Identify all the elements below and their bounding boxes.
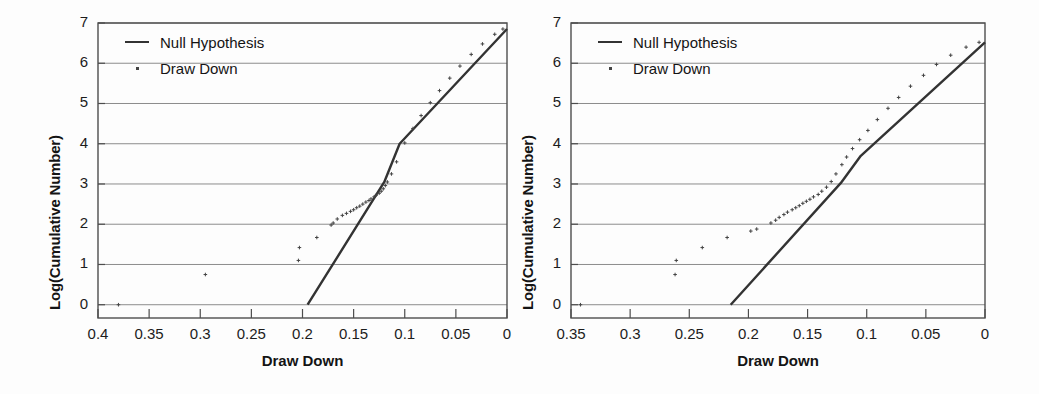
draw-down-point [808, 197, 812, 201]
legend-item-draw-down-right: Draw Down [593, 55, 737, 81]
draw-down-point [797, 204, 801, 208]
draw-down-point [909, 84, 913, 88]
draw-down-point [298, 246, 302, 250]
y-tick-label: 3 [533, 174, 561, 191]
y-tick-label: 7 [533, 13, 561, 30]
draw-down-point [725, 236, 729, 240]
draw-down-point [812, 195, 816, 199]
draw-down-point [749, 229, 753, 233]
legend-label-null-hypothesis-left: Null Hypothesis [154, 34, 264, 51]
draw-down-point [386, 180, 390, 184]
y-tick-label: 6 [533, 53, 561, 70]
draw-down-point [829, 180, 833, 184]
y-tick-label: 2 [60, 214, 88, 231]
draw-down-point [448, 76, 452, 80]
y-tick-label: 1 [60, 254, 88, 271]
draw-down-point [674, 259, 678, 263]
legend-label-null-hypothesis-right: Null Hypothesis [627, 34, 737, 51]
draw-down-point [820, 189, 824, 193]
draw-down-point [335, 217, 339, 221]
draw-down-point [825, 185, 829, 189]
draw-down-point [774, 218, 778, 222]
y-tick-label: 5 [533, 93, 561, 110]
draw-down-point [501, 27, 505, 31]
x-tick-label: 0.05 [896, 325, 956, 342]
draw-down-point [782, 213, 786, 217]
draw-down-point [349, 210, 353, 214]
draw-down-point [458, 64, 462, 68]
draw-down-point [790, 208, 794, 212]
draw-down-point [755, 227, 759, 231]
x-tick-label: 0.2 [718, 325, 778, 342]
draw-down-point [794, 206, 798, 210]
y-tick-label: 7 [60, 13, 88, 30]
draw-down-point [315, 236, 319, 240]
draw-down-point [345, 212, 349, 216]
y-tick-label: 3 [60, 174, 88, 191]
x-tick-label: 0.35 [541, 325, 601, 342]
line-key-icon [120, 41, 154, 43]
draw-down-point [117, 303, 121, 307]
null-hypothesis-line [731, 42, 985, 304]
y-tick-label: 4 [60, 134, 88, 151]
legend-item-draw-down-left: Draw Down [120, 55, 264, 81]
draw-down-point [579, 303, 583, 307]
draw-down-point [977, 41, 981, 45]
draw-down-point [438, 89, 442, 93]
draw-down-point [866, 129, 870, 133]
y-tick-label: 2 [533, 214, 561, 231]
draw-down-point [358, 204, 362, 208]
draw-down-point [840, 163, 844, 167]
draw-down-point [204, 273, 208, 277]
y-tick-label: 5 [60, 93, 88, 110]
y-tick-label: 1 [533, 254, 561, 271]
draw-down-point [964, 45, 968, 49]
draw-down-point [395, 160, 399, 164]
draw-down-point [364, 200, 368, 204]
draw-down-point [816, 193, 820, 197]
draw-down-point [897, 96, 901, 100]
legend-label-draw-down-left: Draw Down [154, 60, 238, 77]
y-tick-label: 6 [60, 53, 88, 70]
draw-down-point [390, 172, 394, 176]
figure-page: Log(Cumulative Number) Draw Down Null Hy… [0, 0, 1039, 394]
draw-down-point [341, 214, 345, 218]
dot-key-icon [593, 67, 627, 70]
draw-down-point [355, 206, 359, 210]
chart-panel-left: Log(Cumulative Number) Draw Down Null Hy… [0, 0, 519, 394]
draw-down-point [834, 172, 838, 176]
draw-down-point [845, 155, 849, 159]
legend-item-null-hypothesis-left: Null Hypothesis [120, 29, 264, 55]
draw-down-point [700, 246, 704, 250]
draw-down-point [805, 199, 809, 203]
draw-down-point [297, 259, 301, 263]
x-tick-label: 0.3 [600, 325, 660, 342]
draw-down-point [851, 147, 855, 151]
draw-down-point [777, 216, 781, 220]
x-tick-label: 0.25 [659, 325, 719, 342]
chart-panel-right: Log(Cumulative Number) Draw Down Null Hy… [519, 0, 1039, 394]
draw-down-point [673, 273, 677, 277]
x-axis-label-left: Draw Down [98, 352, 507, 369]
x-tick-label: 0.15 [778, 325, 838, 342]
y-tick-label: 0 [60, 295, 88, 312]
draw-down-point [786, 210, 790, 214]
y-tick-label: 4 [533, 134, 561, 151]
draw-down-point [352, 208, 356, 212]
x-axis-label-right: Draw Down [571, 352, 985, 369]
draw-down-point [858, 138, 862, 142]
draw-down-point [493, 32, 497, 36]
x-tick-label: 0.1 [837, 325, 897, 342]
legend-item-null-hypothesis-right: Null Hypothesis [593, 29, 737, 55]
legend-label-draw-down-right: Draw Down [627, 60, 711, 77]
x-tick-label: 0 [955, 325, 1015, 342]
line-key-icon [593, 41, 627, 43]
draw-down-point [886, 107, 890, 111]
draw-down-point [419, 114, 423, 118]
dot-key-icon [120, 67, 154, 70]
legend-left: Null Hypothesis Draw Down [120, 29, 264, 81]
draw-down-point [481, 42, 485, 46]
null-hypothesis-line [308, 29, 507, 305]
y-tick-label: 0 [533, 295, 561, 312]
draw-down-point [922, 74, 926, 78]
